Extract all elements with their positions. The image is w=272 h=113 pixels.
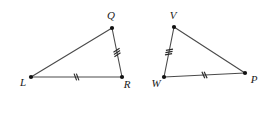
side-VW-tick-3	[165, 54, 172, 55]
side-VW-tick-2	[165, 51, 172, 52]
triangle-LQR: LQR	[19, 9, 131, 90]
vertex-dot-L	[29, 75, 33, 79]
side-VW-tick-group-3	[165, 49, 173, 55]
side-VW-tick-1	[166, 49, 173, 50]
vertex-dot-P	[243, 71, 247, 75]
vertex-label-P: P	[250, 73, 258, 85]
vertex-label-Q: Q	[107, 9, 115, 21]
geometry-canvas: LQRVWP	[0, 0, 272, 113]
side-QR-tick-group-3	[113, 48, 120, 56]
side-VP	[174, 27, 245, 73]
vertex-dot-Q	[110, 26, 114, 30]
vertex-label-W: W	[151, 77, 161, 89]
vertex-label-R: R	[123, 78, 131, 90]
geometry-figure: LQRVWP	[0, 0, 272, 113]
vertex-label-V: V	[170, 9, 178, 21]
vertex-dot-V	[172, 25, 176, 29]
triangle-VWP: VWP	[151, 9, 257, 89]
vertex-dot-W	[162, 75, 166, 79]
side-LQ	[31, 28, 112, 77]
vertex-label-L: L	[19, 76, 26, 88]
